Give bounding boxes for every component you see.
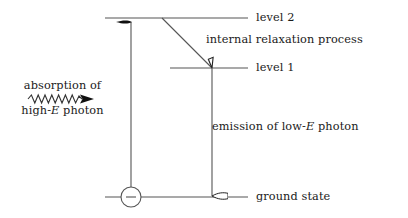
label-emission-of-low-e-photon: emission of low-E photon (212, 120, 359, 133)
label-absorption-line-2: high-E photon (9, 104, 116, 117)
relaxation-arrow (162, 18, 212, 68)
label-level-1: level 1 (256, 61, 294, 74)
absorption-label-prefix: high- (21, 104, 51, 117)
emission-label-suffix: photon (314, 120, 358, 133)
emission-label-prefix: emission of low- (212, 120, 306, 133)
figure-canvas: level 2 level 1 ground state internal re… (0, 0, 408, 218)
label-ground-state: ground state (256, 190, 330, 203)
label-internal-relaxation-process: internal relaxation process (206, 33, 363, 46)
label-level-2: level 2 (256, 11, 294, 24)
label-absorption-line-1: absorption of (9, 79, 116, 92)
photon-arrowhead-icon (80, 95, 94, 104)
absorption-label-suffix: photon (59, 104, 103, 117)
photon-squiggle-icon (28, 95, 82, 103)
